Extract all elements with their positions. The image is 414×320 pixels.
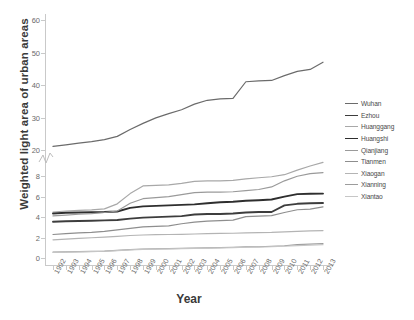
- legend-item-ezhou[interactable]: Ezhou: [345, 110, 414, 122]
- series-lines: [45, 14, 333, 266]
- series-line-huangshi: [53, 194, 323, 214]
- legend-item-xianning[interactable]: Xianning: [345, 179, 414, 191]
- series-line-wuhan: [53, 62, 323, 146]
- legend-label: Ezhou: [361, 112, 379, 119]
- legend-swatch: [345, 184, 358, 185]
- y-tick-label: 2: [36, 233, 40, 242]
- legend-swatch: [345, 115, 358, 117]
- legend-label: Tianmen: [361, 158, 386, 165]
- legend-label: Xiaogan: [361, 170, 385, 177]
- legend-item-huanggang[interactable]: Huanggang: [345, 121, 414, 133]
- y-tick-label: 30: [32, 113, 40, 122]
- y-tick-label: 60: [32, 16, 40, 25]
- legend-item-wuhan[interactable]: Wuhan: [345, 98, 414, 110]
- chart-figure: Weighted light area of urban areas 02468…: [0, 0, 414, 320]
- y-tick-label: 40: [32, 81, 40, 90]
- legend-label: Huanggang: [361, 123, 394, 130]
- legend-label: Qianjiang: [361, 147, 388, 154]
- legend-label: Huangshi: [361, 135, 388, 142]
- legend-swatch: [345, 103, 358, 104]
- y-tick-label: 4: [36, 213, 40, 222]
- y-tick-label: 8: [36, 172, 40, 181]
- legend-item-tianmen[interactable]: Tianmen: [345, 156, 414, 168]
- x-axis-title: Year: [45, 292, 333, 306]
- legend-swatch: [345, 150, 358, 151]
- series-line-xianning: [53, 243, 323, 252]
- legend-label: Xianning: [361, 181, 386, 188]
- legend-item-xiaogan[interactable]: Xiaogan: [345, 168, 414, 180]
- chart-legend: WuhanEzhouHuanggangHuangshiQianjiangTian…: [345, 98, 414, 202]
- legend-swatch: [345, 196, 358, 197]
- y-tick-label: 0: [36, 254, 40, 263]
- legend-swatch: [345, 161, 358, 162]
- legend-item-qianjiang[interactable]: Qianjiang: [345, 144, 414, 156]
- legend-item-huangshi[interactable]: Huangshi: [345, 133, 414, 145]
- plot-area: 024682030405060 199219931994199519961997…: [45, 14, 333, 266]
- legend-label: Wuhan: [361, 100, 381, 107]
- series-line-xiantao: [53, 245, 323, 253]
- y-tick-label: 6: [36, 192, 40, 201]
- legend-item-xiantao[interactable]: Xiantao: [345, 191, 414, 203]
- y-axis-title: Weighted light area of urban areas: [18, 0, 30, 234]
- legend-swatch: [345, 138, 358, 140]
- y-tick-label: 50: [32, 48, 40, 57]
- legend-swatch: [345, 126, 358, 127]
- legend-label: Xiantao: [361, 193, 383, 200]
- legend-swatch: [345, 173, 358, 174]
